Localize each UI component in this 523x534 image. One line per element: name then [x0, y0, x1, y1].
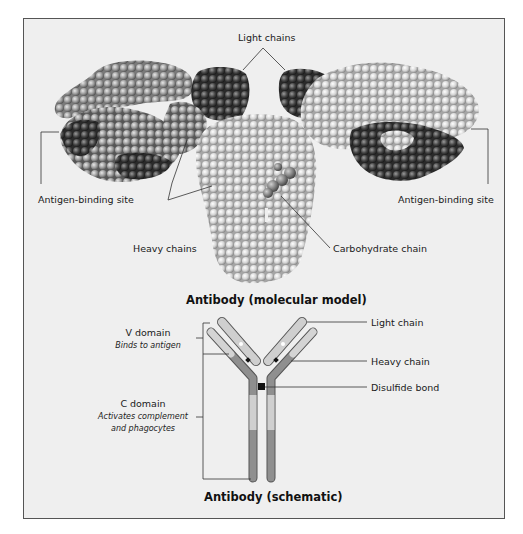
title-schematic: Antibody (schematic): [204, 490, 343, 504]
label-light-chain: Light chain: [371, 318, 423, 328]
label-heavy-chains: Heavy chains: [133, 244, 197, 254]
antibody-schematic: [211, 322, 313, 478]
label-carbohydrate-chain: Carbohydrate chain: [333, 244, 427, 254]
disulfide-bond-hinge: [258, 383, 265, 390]
label-antigen-binding-site-left: Antigen-binding site: [38, 195, 134, 205]
antibody-illustration: [0, 0, 523, 534]
label-v-domain-desc: Binds to antigen: [98, 342, 198, 350]
label-c-domain-desc-1: Activates complement: [88, 413, 198, 421]
label-disulfide-bond: Disulfide bond: [371, 383, 439, 393]
label-heavy-chain: Heavy chain: [371, 357, 430, 367]
label-light-chains: Light chains: [238, 33, 295, 43]
title-molecular-model: Antibody (molecular model): [186, 293, 367, 307]
label-antigen-binding-site-right: Antigen-binding site: [398, 195, 494, 205]
label-v-domain: V domain: [98, 328, 198, 338]
label-c-domain-desc-2: and phagocytes: [88, 425, 198, 433]
label-c-domain: C domain: [88, 399, 198, 409]
